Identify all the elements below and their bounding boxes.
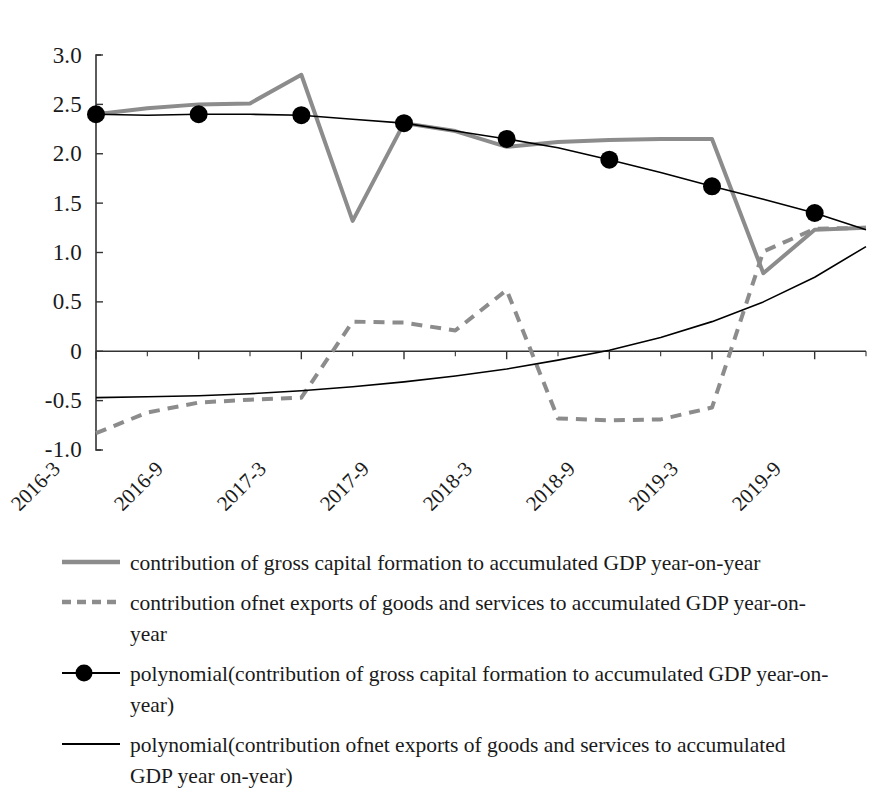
marker-layer: [87, 105, 824, 222]
series-marker: [498, 130, 516, 148]
series-line-1: [96, 228, 866, 433]
series-line-2: [96, 114, 866, 230]
legend-item: polynomial(contribution of gross capital…: [62, 659, 862, 721]
series-marker: [395, 114, 413, 132]
series-marker: [87, 105, 105, 123]
x-tick-label: 2018-3: [419, 458, 476, 515]
legend-label: contribution ofnet exports of goods and …: [130, 588, 830, 650]
x-tick-label: 2016-3: [7, 458, 64, 515]
series-line-3: [96, 247, 866, 398]
series-marker: [703, 177, 721, 195]
series-line-0: [96, 75, 866, 273]
legend-item: contribution of gross capital formation …: [62, 548, 862, 579]
series-marker: [806, 204, 824, 222]
x-tick-label: 2016-9: [110, 458, 167, 515]
x-tick-label: 2017-3: [213, 458, 270, 515]
x-tick-label: 2018-9: [522, 458, 579, 515]
legend-label: polynomial(contribution of gross capital…: [130, 659, 830, 721]
series-marker: [292, 106, 310, 124]
series-marker: [190, 105, 208, 123]
legend-label: polynomial(contribution ofnet exports of…: [130, 730, 830, 792]
series-layer: [96, 75, 866, 433]
legend-key-solid-gray-icon: [62, 550, 120, 574]
x-axis-tick-labels: 2016-3 2016-9 2017-3 2017-9 2018-3 2018-…: [0, 450, 884, 550]
legend-item: polynomial(contribution ofnet exports of…: [62, 730, 862, 792]
legend-key-solid-black-icon: [62, 732, 120, 756]
legend-label: contribution of gross capital formation …: [130, 548, 760, 579]
x-tick-label: 2017-9: [316, 458, 373, 515]
legend-key-dashed-gray-icon: [62, 590, 120, 614]
series-marker: [600, 151, 618, 169]
legend-item: contribution ofnet exports of goods and …: [62, 588, 862, 650]
x-tick-label: 2019-9: [728, 458, 785, 515]
legend-key-black-marker-icon: [62, 661, 120, 685]
x-tick-label: 2019-3: [625, 458, 682, 515]
chart-canvas: [0, 0, 884, 470]
chart-legend: contribution of gross capital formation …: [62, 548, 862, 792]
plot-area: 3.0 2.5 2.0 1.5 1.0 0.5 0 -0.5 -1.0: [0, 0, 884, 470]
